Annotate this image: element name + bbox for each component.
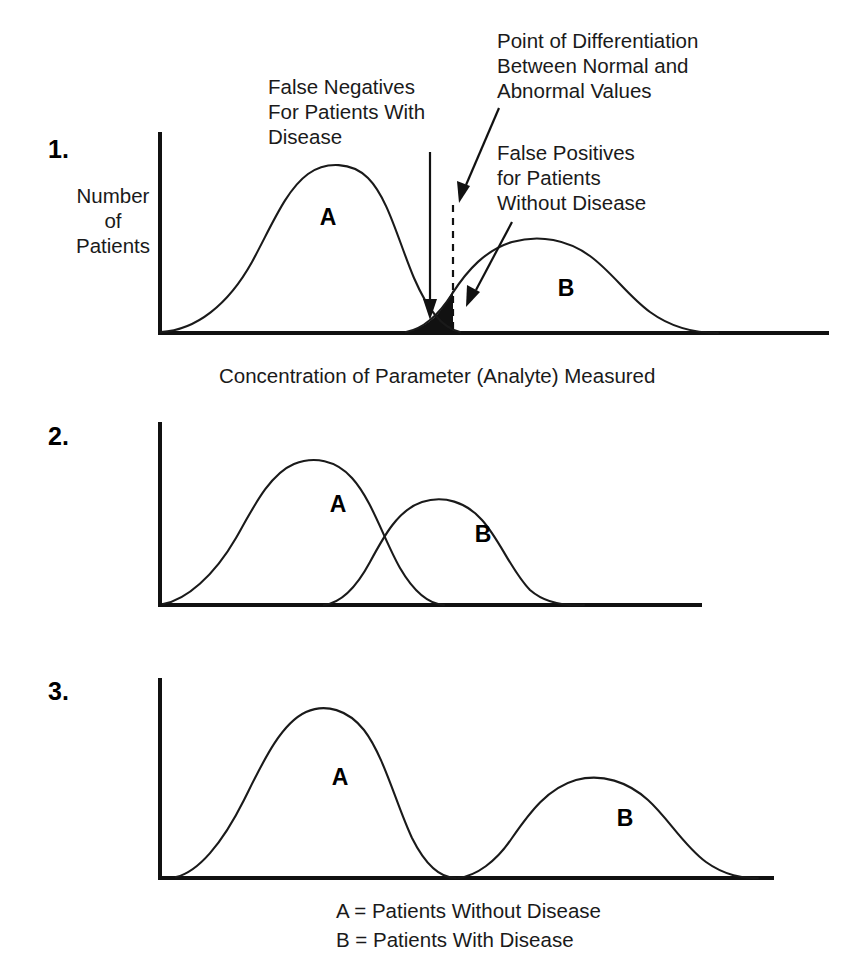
annotation-false-positives: False Positives for Patients Without Dis… xyxy=(497,141,646,214)
panel-3-curve-b xyxy=(458,778,758,879)
leader-false-negatives xyxy=(423,152,437,320)
panel-2-curve-a-label: A xyxy=(330,491,347,517)
panel-3-curve-a xyxy=(176,708,456,878)
annotation-false-positives-line-2: for Patients xyxy=(497,166,601,189)
panel-1-number: 1. xyxy=(48,135,69,163)
panel-3-number: 3. xyxy=(48,677,69,705)
annotation-point-of-differentiation: Point of Differentiation Between Normal … xyxy=(497,29,698,102)
annotation-false-negatives-line-2: For Patients With xyxy=(268,100,425,123)
leader-point-of-differentiation xyxy=(453,108,499,332)
leader-false-positives xyxy=(466,222,512,307)
y-axis-label-line-2: of xyxy=(104,209,121,232)
annotation-false-negatives: False Negatives For Patients With Diseas… xyxy=(268,75,425,148)
panel-2-curve-a xyxy=(163,460,444,605)
x-axis-label: Concentration of Parameter (Analyte) Mea… xyxy=(219,364,655,387)
panel-2-curve-b xyxy=(324,499,584,605)
panel-2-number: 2. xyxy=(48,422,69,450)
y-axis-label: Number of Patients xyxy=(76,184,150,257)
panel-3-curve-a-label: A xyxy=(332,764,349,790)
annotation-false-negatives-line-1: False Negatives xyxy=(268,75,415,98)
legend-line-a: A = Patients Without Disease xyxy=(336,899,601,922)
legend: A = Patients Without Disease B = Patient… xyxy=(336,899,601,951)
annotation-false-positives-line-3: Without Disease xyxy=(497,191,646,214)
y-axis-label-line-3: Patients xyxy=(76,234,150,257)
panel-3: 3. A B xyxy=(48,677,772,878)
panel-1-curve-a xyxy=(161,165,460,332)
panel-1-curve-b-label: B xyxy=(558,275,575,301)
panel-1: 1. Number of Patients A B xyxy=(48,108,827,387)
panel-2: 2. A B xyxy=(48,422,700,605)
legend-line-b: B = Patients With Disease xyxy=(336,928,574,951)
panel-3-axes xyxy=(160,680,772,878)
panel-3-curve-b-label: B xyxy=(617,805,634,831)
panel-1-axes xyxy=(160,134,827,333)
figure-canvas: False Negatives For Patients With Diseas… xyxy=(0,0,864,958)
annotation-point-of-differentiation-line-2: Between Normal and xyxy=(497,54,688,77)
y-axis-label-line-1: Number xyxy=(77,184,150,207)
panel-2-axes xyxy=(160,424,700,605)
leader-point-of-differentiation-arrowhead xyxy=(457,181,470,203)
annotation-point-of-differentiation-line-1: Point of Differentiation xyxy=(497,29,698,52)
panel-1-curve-a-label: A xyxy=(320,204,337,230)
panel-2-curve-b-label: B xyxy=(475,521,492,547)
distribution-overlap-figure: False Negatives For Patients With Diseas… xyxy=(0,0,864,958)
annotation-point-of-differentiation-line-3: Abnormal Values xyxy=(497,79,652,102)
annotation-false-negatives-line-3: Disease xyxy=(268,125,342,148)
annotation-false-positives-line-1: False Positives xyxy=(497,141,635,164)
